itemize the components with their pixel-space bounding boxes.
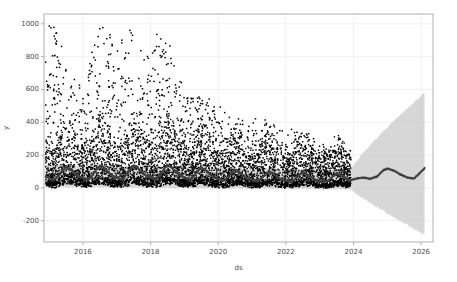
y-tick-label: 0	[35, 184, 39, 192]
x-tick-label: 2026	[412, 248, 430, 256]
y-tick-label: 400	[26, 118, 39, 126]
y-axis-label: y	[2, 126, 10, 130]
y-tick-label: 1000	[21, 20, 39, 28]
axes-background	[44, 14, 433, 242]
x-tick-label: 2018	[142, 248, 160, 256]
x-tick-label: 2024	[345, 248, 363, 256]
chart-plot-area	[0, 0, 457, 282]
y-tick-label: 200	[26, 151, 39, 159]
y-tick-label: 600	[26, 85, 39, 93]
forecast-chart-figure: -20002004006008001000 201620182020202220…	[0, 0, 457, 282]
x-tick-label: 2022	[277, 248, 295, 256]
y-tick-label: -200	[23, 217, 39, 225]
x-tick-label: 2016	[74, 248, 92, 256]
x-axis-label: ds	[234, 264, 242, 272]
x-tick-label: 2020	[209, 248, 227, 256]
y-tick-label: 800	[26, 53, 39, 61]
